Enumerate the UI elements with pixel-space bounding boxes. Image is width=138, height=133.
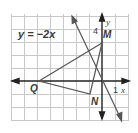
graph-canvas: y = −2x 4 y M Q N 1 x bbox=[0, 0, 138, 133]
x-axis-right-arrow-icon bbox=[122, 79, 129, 84]
coordinate-diagram: y = −2x 4 y M Q N 1 x bbox=[0, 0, 138, 133]
x-axis-label: x bbox=[120, 85, 125, 95]
point-label-n: N bbox=[91, 96, 99, 107]
y-axis-label: y bbox=[105, 17, 110, 27]
line-arrow-bottom-icon bbox=[117, 113, 122, 122]
point-label-q: Q bbox=[30, 83, 38, 94]
y-axis-down-arrow-icon bbox=[100, 112, 105, 119]
x-axis-left-arrow-icon bbox=[12, 79, 19, 84]
x-tick-label-1: 1 bbox=[113, 85, 118, 95]
y-axis-up-arrow-icon bbox=[100, 14, 105, 21]
point-label-m: M bbox=[103, 29, 112, 40]
equation-label: y = −2x bbox=[17, 28, 56, 40]
y-tick-label-4: 4 bbox=[93, 26, 98, 36]
